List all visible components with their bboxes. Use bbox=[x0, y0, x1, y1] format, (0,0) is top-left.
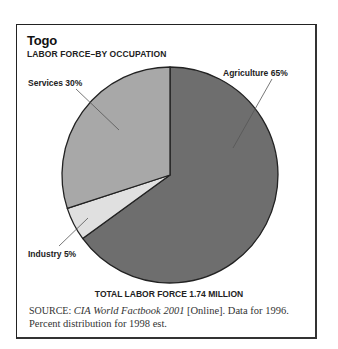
source-title: CIA World Factbook 2001 bbox=[74, 305, 185, 316]
source-prefix: SOURCE: bbox=[29, 305, 71, 316]
services-label: Services 30% bbox=[28, 78, 82, 88]
source-note: SOURCE: CIA World Factbook 2001 [Online]… bbox=[29, 304, 314, 330]
industry-label: Industry 5% bbox=[28, 249, 76, 259]
total-labor-force: TOTAL LABOR FORCE 1.74 MILLION bbox=[0, 289, 338, 299]
agriculture-label: Agriculture 65% bbox=[223, 68, 288, 78]
